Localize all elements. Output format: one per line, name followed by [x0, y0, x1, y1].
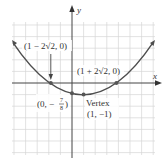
vertex-point — [82, 93, 86, 97]
right-intercept-point — [114, 81, 118, 85]
left-intercept-label: (1 − 2√2, 0) — [24, 41, 67, 51]
axes — [12, 5, 162, 158]
y-intercept-point — [70, 91, 74, 95]
curve-left-arrow-icon — [12, 40, 17, 46]
annotation-arrow-head-icon — [49, 74, 53, 80]
x-axis-label: x — [152, 71, 157, 81]
vertex-title-label: Vertex — [86, 98, 110, 108]
svg-text:): ) — [65, 99, 68, 109]
left-intercept-point — [49, 81, 53, 85]
x-axis-arrow-icon — [155, 80, 162, 85]
vertex-coords-label: (1, −1) — [87, 109, 112, 119]
right-intercept-label: (1 + 2√2, 0) — [77, 66, 120, 76]
y-axis-label: y — [76, 5, 81, 15]
y-axis-arrow-icon — [69, 5, 74, 12]
svg-text:7: 7 — [60, 97, 63, 103]
svg-text:(0, −: (0, − — [37, 99, 54, 109]
parabola-chart: x y (1 − 2√2, 0) (1 + 2√2, 0) (0, − 7 8 … — [0, 0, 165, 166]
svg-text:8: 8 — [60, 105, 63, 111]
y-intercept-label: (0, − 7 8 ) — [36, 94, 70, 112]
